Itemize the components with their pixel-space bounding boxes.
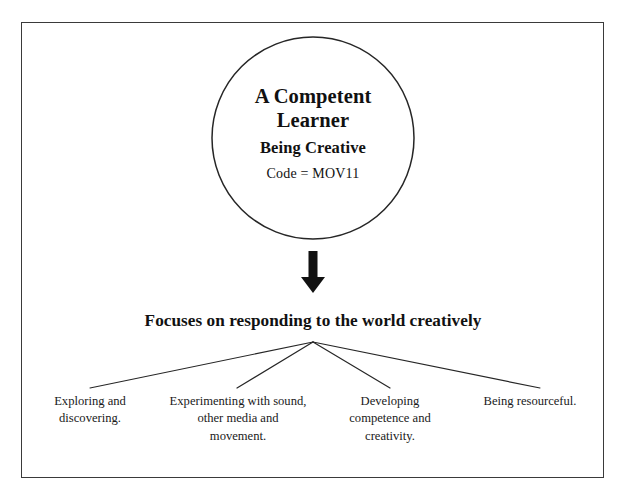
leaf-node-exploring: Exploring and discovering. — [24, 393, 156, 428]
circle-code-label: Code = MOV11 — [213, 166, 413, 182]
leaf-line: movement. — [156, 428, 320, 445]
leaf-line: Exploring and — [24, 393, 156, 410]
leaf-line: competence and — [322, 410, 458, 427]
diagram-root: A Competent Learner Being Creative Code … — [0, 0, 623, 502]
focus-statement: Focuses on responding to the world creat… — [63, 311, 563, 331]
leaf-line: creativity. — [322, 428, 458, 445]
circle-subtitle: Being Creative — [213, 138, 413, 157]
circle-title-line-2: Learner — [213, 109, 413, 133]
circle-text-block: A Competent Learner Being Creative Code … — [213, 85, 413, 182]
leaf-line: Being resourceful. — [456, 393, 604, 410]
leaf-line: discovering. — [24, 410, 156, 427]
leaf-line: other media and — [156, 410, 320, 427]
leaf-node-experimenting: Experimenting with sound, other media an… — [156, 393, 320, 445]
leaf-line: Experimenting with sound, — [156, 393, 320, 410]
leaf-line: Developing — [322, 393, 458, 410]
leaf-node-resourceful: Being resourceful. — [456, 393, 604, 410]
leaf-node-developing: Developing competence and creativity. — [322, 393, 458, 445]
circle-title-line-1: A Competent — [213, 85, 413, 109]
